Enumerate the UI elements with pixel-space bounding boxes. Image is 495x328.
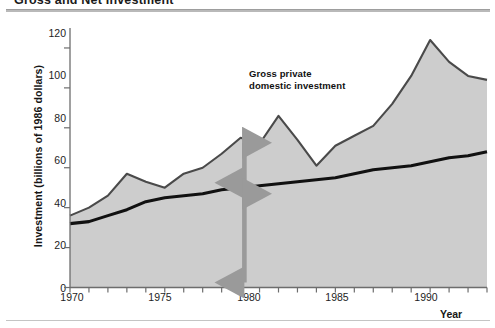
series-layer (70, 40, 487, 288)
x-tick-marks (70, 288, 487, 293)
chart-plot-area (0, 0, 495, 328)
chart-figure: Gross and Net Investment Investment (bil… (0, 0, 495, 328)
y-tick-marks (64, 48, 70, 288)
